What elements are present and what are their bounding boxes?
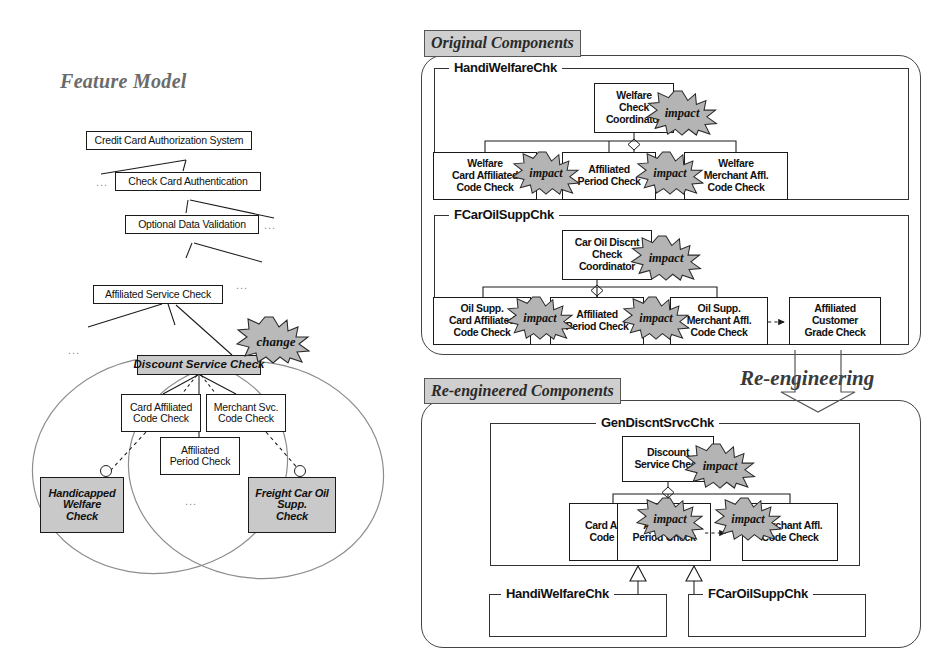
fm-node-label: Card Affiliated Code Check bbox=[128, 402, 194, 424]
fm-node-label: Optional Data Validation bbox=[136, 219, 248, 230]
reengineered-components-tab: Re-engineered Components bbox=[424, 378, 621, 404]
component-welfare-card-affiliated-code-check[interactable]: Welfare Card Affiliated Code Check bbox=[433, 152, 537, 200]
fm-node-label: Discount Service Check bbox=[131, 359, 266, 371]
component-label: Merchant Affl. Code Check bbox=[756, 520, 825, 544]
variation-point-left bbox=[100, 465, 112, 477]
component-affiliated-period-check-gen[interactable]: Affiliated Period Check bbox=[617, 503, 711, 561]
ellipsis-mark: ... bbox=[264, 219, 276, 231]
fm-node-label: Affiliated Period Check bbox=[168, 445, 233, 467]
fm-node-card-affiliated-code-check[interactable]: Card Affiliated Code Check bbox=[121, 394, 201, 432]
component-welfare-check-coordinator[interactable]: Welfare Check Coordinator bbox=[594, 83, 674, 133]
ellipsis-mark: ... bbox=[236, 279, 248, 291]
subpackage-fcaroilsuppchk-label: FCarOilSuppChk bbox=[703, 586, 813, 601]
reengineering-title: Re-engineering bbox=[740, 366, 874, 391]
package-handiwelfarechk-label: HandiWelfareChk bbox=[449, 60, 562, 75]
variation-point-right bbox=[294, 465, 306, 477]
component-label: Affiliated Period Check bbox=[576, 164, 643, 188]
component-label: Welfare Merchant Affl. Code Check bbox=[702, 158, 771, 193]
fm-node-affiliated-period-check[interactable]: Affiliated Period Check bbox=[160, 437, 240, 475]
fm-node-label: Affiliated Service Check bbox=[103, 289, 213, 300]
fm-node-merchant-svc-code-check[interactable]: Merchant Svc. Code Check bbox=[206, 394, 286, 432]
fm-node-label: Check Card Authentication bbox=[126, 176, 249, 187]
ellipsis-mark: ... bbox=[96, 176, 108, 188]
component-label: Discount Service Check bbox=[632, 447, 703, 471]
fm-node-discount-service-check[interactable]: Discount Service Check bbox=[137, 355, 261, 375]
package-gendiscntsrvcchk-label: GenDiscntSrvcChk bbox=[596, 415, 719, 430]
package-fcaroilsuppchk-label: FCarOilSuppChk bbox=[449, 207, 559, 222]
component-label: Affiliated Period Check bbox=[631, 520, 698, 544]
fm-node-credit-card-authorization-system[interactable]: Credit Card Authorization System bbox=[86, 131, 252, 150]
fm-node-check-card-authentication[interactable]: Check Card Authentication bbox=[115, 172, 261, 191]
component-oil-supp-merchant-affl-code-check[interactable]: Oil Supp. Merchant Affl. Code Check bbox=[670, 297, 768, 345]
ellipsis-mark: ... bbox=[185, 495, 197, 507]
component-affiliated-customer-grade-check[interactable]: Affiliated Customer Grade Check bbox=[789, 297, 881, 345]
fm-node-freight-car-oil-supp-check[interactable]: Freight Car Oil Supp. Check bbox=[248, 477, 336, 533]
component-merchant-affl-code-check-gen[interactable]: Merchant Affl. Code Check bbox=[742, 503, 838, 561]
component-welfare-merchant-affl-code-check[interactable]: Welfare Merchant Affl. Code Check bbox=[684, 152, 788, 200]
component-affiliated-period-check-hwc[interactable]: Affiliated Period Check bbox=[562, 152, 656, 200]
ellipsis-mark: ... bbox=[76, 495, 88, 507]
fm-node-label: Merchant Svc. Code Check bbox=[212, 402, 281, 424]
component-oil-supp-card-affiliated-code-check[interactable]: Oil Supp. Card Affiliated Code Check bbox=[433, 297, 531, 345]
feature-model-title: Feature Model bbox=[60, 70, 187, 93]
component-label: Welfare Check Coordinator bbox=[604, 90, 664, 125]
discount-service-optional-connectors bbox=[182, 375, 216, 394]
original-components-tab: Original Components bbox=[424, 30, 581, 57]
component-label: Oil Supp. Merchant Affl. Code Check bbox=[685, 303, 754, 338]
component-label: Oil Supp. Card Affiliated Code Check bbox=[447, 303, 517, 338]
component-discount-service-check[interactable]: Discount Service Check bbox=[622, 436, 714, 482]
ellipsis-mark: ... bbox=[68, 344, 80, 356]
fm-node-optional-data-validation[interactable]: Optional Data Validation bbox=[125, 215, 259, 234]
component-label: Welfare Card Affiliated Code Check bbox=[450, 158, 520, 193]
fm-node-label: Freight Car Oil Supp. Check bbox=[253, 488, 330, 522]
fm-node-label: Credit Card Authorization System bbox=[93, 135, 246, 146]
component-label: Affiliated Period Check bbox=[564, 309, 631, 333]
subpackage-handiwelfarechk-label: HandiWelfareChk bbox=[501, 586, 614, 601]
component-car-oil-discnt-check-coordinator[interactable]: Car Oil Discnt Check Coordinator bbox=[562, 230, 652, 280]
component-label: Car Oil Discnt Check Coordinator bbox=[573, 237, 642, 272]
component-affiliated-period-check-fcos[interactable]: Affiliated Period Check bbox=[550, 297, 644, 345]
component-label: Affiliated Customer Grade Check bbox=[803, 303, 868, 338]
change-badge-label: change bbox=[257, 334, 296, 350]
fm-node-affiliated-service-check[interactable]: Affiliated Service Check bbox=[93, 285, 223, 304]
diagram-canvas: Feature Model Credit Card Authorization … bbox=[0, 0, 944, 670]
